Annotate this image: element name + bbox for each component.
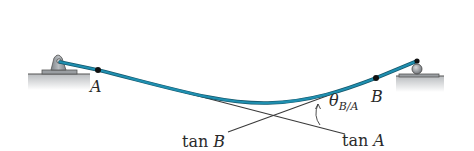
point-a-marker [95, 67, 101, 73]
label-point-b: B [370, 87, 383, 106]
elastic-curve [60, 61, 417, 103]
beam-deflection-diagram: A B θB/A tan B tan A [0, 0, 474, 151]
base-plate-left [42, 70, 77, 74]
pin-support-left [28, 55, 90, 90]
arrowhead-icon [316, 104, 321, 109]
label-tan-a: tan A [342, 131, 385, 150]
label-theta: θB/A [329, 91, 358, 113]
ground-left [28, 74, 90, 90]
label-point-a: A [88, 77, 102, 96]
ground-right [396, 76, 444, 92]
label-tan-b: tan B [182, 132, 225, 151]
angle-arc [316, 104, 321, 125]
point-b-marker [373, 75, 379, 81]
roller-icon [412, 64, 422, 74]
beam-end-marker [414, 58, 419, 63]
base-plate-right [399, 74, 439, 77]
